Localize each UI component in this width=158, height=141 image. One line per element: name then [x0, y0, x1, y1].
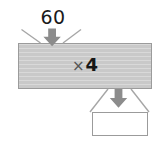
- output-down-arrow-icon: [110, 89, 127, 108]
- answer-box[interactable]: [92, 112, 148, 136]
- operation-label: ×4: [19, 55, 151, 76]
- input-funnel-right-line: [63, 30, 81, 44]
- multiplication-sign: ×: [72, 57, 85, 75]
- operation-operand: 4: [86, 54, 99, 75]
- input-funnel-left-line: [22, 30, 41, 44]
- bar-model-diagram: 60 ×4: [0, 0, 158, 141]
- input-value-label: 60: [30, 6, 76, 28]
- output-funnel-left-line: [90, 89, 108, 112]
- operation-bar: ×4: [18, 43, 152, 89]
- output-funnel-right-line: [131, 89, 149, 112]
